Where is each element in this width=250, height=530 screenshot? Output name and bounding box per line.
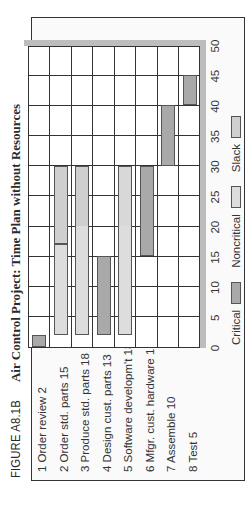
bar-noncritical: [54, 244, 68, 335]
bar-critical: [161, 105, 175, 165]
legend-swatch-critical: [231, 282, 241, 304]
legend-swatch-slack: [231, 116, 241, 138]
row-separator: [157, 47, 158, 347]
task-label: 2 Order std. parts 15: [54, 367, 76, 472]
legend-swatch-noncritical: [231, 186, 241, 208]
bar-critical: [140, 166, 154, 257]
legend-item-slack: Slack: [230, 116, 242, 172]
bar-critical: [32, 335, 46, 347]
axis-tick-label: 20: [209, 217, 221, 237]
task-label: 6 Mfgr. cust. hardware 15: [140, 342, 162, 472]
bar-slack: [54, 166, 68, 245]
task-label: 7 Assemble 10: [161, 397, 183, 472]
axis-tick-label: 25: [209, 187, 221, 207]
axis-tick-label: 50: [209, 36, 221, 56]
axis-tick-label: 15: [209, 247, 221, 267]
bar-noncritical: [75, 226, 89, 335]
legend: Critical Noncritical Slack: [228, 102, 244, 345]
legend-item-noncritical: Noncritical: [230, 186, 242, 268]
bar-critical: [97, 256, 111, 335]
task-label: 5 Software developm't 18: [118, 343, 140, 472]
task-label: 1 Order review 2: [32, 387, 54, 472]
row-separator: [49, 47, 50, 347]
legend-label: Slack: [230, 144, 242, 172]
axis-tick-label: 30: [209, 157, 221, 177]
figure-caption: Air Control Project: Time Plan without R…: [8, 104, 23, 382]
figure-number: FIGURE A8.1B: [7, 400, 25, 478]
axis-tick-label: 40: [209, 96, 221, 116]
axis-tick-label: 10: [209, 278, 221, 298]
row-separator: [114, 47, 115, 347]
gantt-grid: [28, 46, 200, 348]
task-label: 4 Design cust. parts 13: [97, 354, 119, 472]
axis-tick-label: 45: [209, 66, 221, 86]
legend-label: Noncritical: [230, 214, 242, 268]
axis-tick-label: 0: [209, 338, 221, 358]
bar-noncritical: [118, 226, 132, 335]
axis-tick-label: 5: [209, 308, 221, 328]
row-separator: [135, 47, 136, 347]
bar-critical: [183, 75, 197, 105]
task-label: 3 Produce std. parts 18: [75, 353, 97, 472]
legend-label: Critical: [230, 310, 242, 345]
axis-tick-label: 35: [209, 127, 221, 147]
grid-shadow-bottom: [200, 40, 206, 348]
row-separator: [71, 47, 72, 347]
row-separator: [92, 47, 93, 347]
figure-title: FIGURE A8.1B Air Control Project: Time P…: [7, 104, 25, 478]
rotated-figure: FIGURE A8.1B Air Control Project: Time P…: [0, 0, 250, 530]
bar-slack: [118, 166, 132, 226]
row-separator: [178, 47, 179, 347]
bar-slack: [75, 166, 89, 226]
task-labels: 1 Order review 2 2 Order std. parts 15 3…: [31, 352, 203, 478]
legend-item-critical: Critical: [230, 282, 242, 345]
task-label: 8 Test 5: [183, 432, 205, 472]
